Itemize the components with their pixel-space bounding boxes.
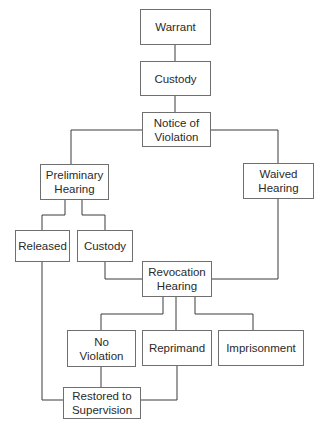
node-custody: Custody	[140, 61, 211, 96]
node-preliminary-hearing: Preliminary Hearing	[40, 164, 109, 200]
node-released: Released	[15, 230, 70, 262]
flowchart-diagram: Warrant Custody Notice of Violation Prel…	[0, 0, 325, 427]
node-custody-2: Custody	[77, 230, 133, 262]
node-no-violation: No Violation	[67, 330, 136, 367]
node-revocation-hearing: Revocation Hearing	[142, 261, 212, 297]
node-warrant: Warrant	[140, 9, 211, 45]
node-waived-hearing: Waived Hearing	[243, 163, 314, 199]
node-notice-of-violation: Notice of Violation	[142, 112, 211, 147]
node-restored-to-supervision: Restored to Supervision	[63, 387, 141, 419]
node-reprimand: Reprimand	[142, 330, 212, 366]
node-imprisonment: Imprisonment	[218, 330, 304, 366]
